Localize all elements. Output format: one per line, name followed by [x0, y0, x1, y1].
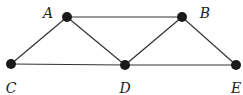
- node-D: [120, 60, 130, 70]
- labels: ABCDE: [6, 5, 241, 95]
- edge-B-D: [125, 17, 182, 65]
- node-label-B: B: [199, 5, 210, 21]
- graph-diagram: ABCDE: [0, 0, 243, 95]
- node-C: [6, 59, 16, 69]
- node-label-D: D: [118, 80, 130, 95]
- node-label-A: A: [41, 5, 53, 21]
- node-E: [231, 60, 241, 70]
- node-B: [177, 12, 187, 22]
- edge-B-E: [182, 17, 236, 65]
- node-A: [62, 12, 72, 22]
- edge-C-D: [11, 64, 125, 65]
- node-label-C: C: [6, 80, 17, 95]
- node-label-E: E: [230, 80, 241, 95]
- edges: [11, 17, 236, 65]
- edge-A-C: [11, 17, 67, 64]
- edge-A-D: [67, 17, 125, 65]
